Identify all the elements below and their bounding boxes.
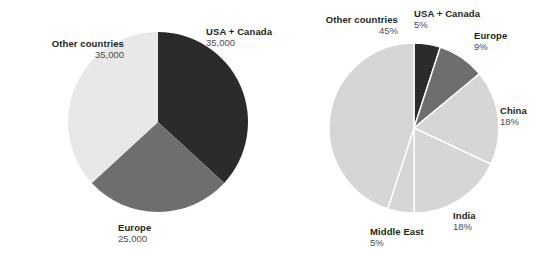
left-label-europe-value: 25,000: [118, 233, 228, 244]
right-label-china-value: 18%: [500, 116, 550, 127]
right-label-india: India 18%: [453, 210, 503, 232]
right-label-other-countries-name: Other countries: [288, 14, 398, 25]
right-label-india-value: 18%: [453, 221, 503, 232]
right-label-europe-name: Europe: [474, 30, 544, 41]
right-label-china-name: China: [500, 105, 550, 116]
right-label-middle-east-name: Middle East: [370, 226, 450, 237]
left-label-usa-canada-value: 35,000: [206, 37, 336, 48]
left-label-europe-name: Europe: [118, 222, 228, 233]
left-label-europe: Europe 25,000: [118, 222, 228, 244]
left-label-other-countries-value: 35,000: [14, 49, 124, 60]
left-label-other-countries-name: Other countries: [14, 38, 124, 49]
right-label-middle-east: Middle East 5%: [370, 226, 450, 248]
right-label-usa-canada-value: 5%: [414, 19, 524, 30]
right-label-india-name: India: [453, 210, 503, 221]
left-label-other-countries: Other countries 35,000: [14, 38, 124, 60]
right-label-usa-canada: USA + Canada 5%: [414, 8, 524, 30]
pie-charts-figure: Other countries 35,000 USA + Canada 35,0…: [0, 0, 552, 264]
right-label-other-countries: Other countries 45%: [288, 14, 398, 36]
right-label-other-countries-value: 45%: [288, 25, 398, 36]
right-label-china: China 18%: [500, 105, 550, 127]
right-pie-chart: [329, 43, 499, 213]
right-label-usa-canada-name: USA + Canada: [414, 8, 524, 19]
right-label-europe-value: 9%: [474, 41, 544, 52]
right-label-europe: Europe 9%: [474, 30, 544, 52]
right-label-middle-east-value: 5%: [370, 237, 450, 248]
